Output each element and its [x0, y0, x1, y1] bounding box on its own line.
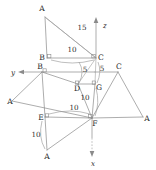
- middle-band: [42, 58, 118, 84]
- edge-Elow-Flow: [45, 117, 92, 118]
- vertex-label-E-low: E: [38, 113, 44, 122]
- vertex-label-B-mid: B: [37, 62, 43, 71]
- dimension-10-top: 10: [67, 45, 77, 54]
- arc-10-low: [41, 121, 45, 149]
- edge-Atop-Bupper: [45, 17, 47, 58]
- upper-flap: [45, 17, 96, 63]
- right-angle-Bmid: [43, 69, 46, 72]
- centre-panel: [45, 84, 98, 118]
- dimension-5-right: 5: [100, 64, 105, 73]
- vertex-label-A-left: A: [6, 97, 13, 106]
- dimension-5-left: 5: [83, 65, 88, 74]
- vertex-label-A-right: A: [143, 114, 150, 123]
- edge-Bmid-Aleft: [12, 72, 42, 101]
- dimension-10-low: 10: [31, 130, 41, 139]
- right-flap: [92, 72, 143, 118]
- vertex-label-D-mid: D: [74, 84, 80, 93]
- edge-Cupper-Gmid: [95, 58, 96, 84]
- edge-Abottom-Flow: [47, 118, 92, 150]
- edge-Elow-Abottom: [45, 117, 47, 150]
- vertex-label-C-upper: C: [98, 53, 104, 62]
- axis-z-arrowhead: [94, 17, 99, 23]
- edge-Cright-Flow: [92, 72, 118, 118]
- geometry-diagram: A B C B D G C A E F A A 15 10 5 5 10 10 …: [0, 0, 156, 170]
- edge-Aleft-Flow: [12, 101, 92, 118]
- vertex-label-B-upper: B: [39, 53, 45, 62]
- axis-label-y: y: [10, 68, 16, 77]
- dimension-15: 15: [77, 23, 87, 32]
- arc-10-top: [51, 60, 94, 63]
- dimension-10-vertical: 10: [80, 93, 90, 102]
- dimension-10-horizontal: 10: [69, 103, 79, 112]
- arc-5-left: [79, 62, 82, 83]
- right-angle-Bupper: [48, 55, 51, 58]
- vertex-label-A-top: A: [38, 4, 45, 13]
- vertex-label-A-bottom: A: [43, 152, 50, 161]
- axis-y-arrowhead: [18, 70, 24, 75]
- right-angle-Elow: [46, 114, 49, 117]
- edge-Cright-Aright: [118, 72, 143, 117]
- net-figure-svg: A B C B D G C A E F A A 15 10 5 5 10 10 …: [0, 0, 156, 170]
- edge-Flow-Aright: [92, 117, 143, 118]
- edge-Bmid-Elow: [42, 72, 45, 117]
- edge-Bmid-Dmid: [42, 72, 78, 84]
- axis-label-x: x: [91, 159, 95, 168]
- vertex-label-G-mid: G: [96, 83, 102, 92]
- axis-x-arrowhead: [90, 151, 95, 157]
- axis-label-z: z: [102, 21, 107, 30]
- vertex-label-F-low: F: [92, 119, 97, 128]
- vertex-label-C-right: C: [116, 62, 122, 71]
- bottom-flap: [41, 117, 92, 150]
- axis-z: [94, 17, 99, 58]
